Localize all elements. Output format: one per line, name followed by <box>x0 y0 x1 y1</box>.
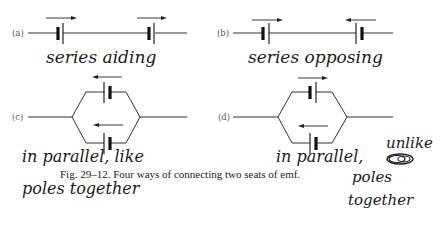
emf-arrow-left-icon <box>298 124 328 128</box>
wire <box>316 92 347 117</box>
panel-a-label: (a) <box>12 28 24 38</box>
emf-arrow-left-icon <box>92 75 122 79</box>
emf-arrow-left-icon <box>93 123 123 127</box>
panel-b-label: (b) <box>217 28 229 38</box>
battery-icon <box>356 23 362 44</box>
wire <box>72 92 104 117</box>
annotation-in-parallel-like: in parallel, like <box>22 147 144 166</box>
panel-b: (b) series opposing <box>217 18 393 67</box>
panel-c-label: (c) <box>12 112 23 122</box>
emf-arrow-right-icon <box>46 16 77 20</box>
panel-d: (d) in parallel, unlike po <box>218 76 433 209</box>
figure-caption: Fig. 29–12. Four ways of connecting two … <box>60 168 300 180</box>
panel-a: (a) series aiding <box>12 16 187 67</box>
panel-d-label: (d) <box>218 112 230 122</box>
scribble-mark <box>387 154 413 164</box>
battery-icon <box>149 23 154 44</box>
annotation-in-parallel: in parallel, <box>276 147 363 166</box>
annotation-together: together <box>348 191 414 209</box>
wire <box>110 92 140 117</box>
emf-arrow-left-icon <box>345 18 376 22</box>
annotation-series-aiding: series aiding <box>46 47 156 67</box>
annotation-poles-together: poles together <box>22 179 141 198</box>
wire <box>278 92 310 117</box>
wire <box>110 117 140 143</box>
wire <box>278 117 310 143</box>
battery-icon <box>263 23 269 44</box>
battery-icon <box>310 82 316 103</box>
battery-icon <box>58 23 63 44</box>
emf-arrow-right-icon <box>252 18 283 22</box>
battery-icon <box>104 82 110 103</box>
emf-connections-diagram: (a) series aiding (b) <box>0 0 446 229</box>
wire <box>316 117 347 143</box>
annotation-unlike: unlike <box>386 134 433 152</box>
annotation-poles: poles <box>352 168 392 186</box>
emf-arrow-right-icon <box>298 76 328 80</box>
wire <box>72 117 104 143</box>
emf-arrow-right-icon <box>137 16 167 20</box>
annotation-series-opposing: series opposing <box>248 47 383 67</box>
